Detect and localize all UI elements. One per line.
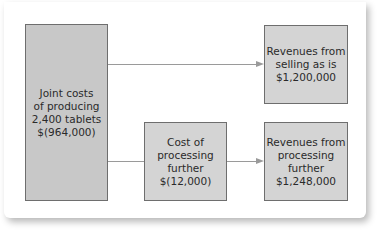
- revenue-selling-as-is-box: Revenues from selling as is $1,200,000: [264, 25, 348, 104]
- joint-costs-box: Joint costs of producing 2,400 tablets $…: [25, 24, 108, 201]
- joint-costs-label: Joint costs of producing 2,400 tablets $…: [32, 87, 102, 139]
- connector-processed-revenue: [227, 161, 258, 162]
- connector-sell-as-is: [108, 64, 258, 65]
- arrow-icon: [256, 158, 264, 164]
- cost-processing-further-label: Cost of processing further $(12,000): [157, 136, 214, 188]
- revenue-processing-further-box: Revenues from processing further $1,248,…: [264, 122, 348, 201]
- revenue-processing-further-label: Revenues from processing further $1,248,…: [267, 136, 346, 188]
- revenue-selling-as-is-label: Revenues from selling as is $1,200,000: [267, 45, 346, 84]
- cost-processing-further-box: Cost of processing further $(12,000): [144, 122, 227, 201]
- arrow-icon: [256, 61, 264, 67]
- connector-process-further: [108, 161, 144, 162]
